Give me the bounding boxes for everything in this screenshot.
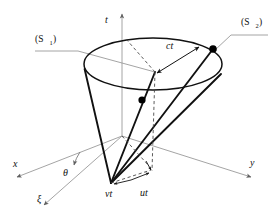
y-axis-label: y: [249, 157, 255, 168]
s2-leader-line: [215, 35, 268, 50]
leader-lines-group: [35, 35, 268, 72]
ut-drop-arrow: [146, 161, 151, 170]
theta-angle-label: θ: [63, 167, 68, 178]
worldline-to-event-2: [111, 49, 213, 183]
ct-measure-arrow: [157, 47, 199, 73]
t-axis-label: t: [105, 14, 108, 25]
light-cone-figure: t x y ξ θ ct vt ut (S 1 ) (S 2 ): [0, 0, 277, 221]
frame-s1-close: ): [53, 34, 56, 45]
light-cone-svg: t x y ξ θ ct vt ut (S 1 ) (S 2 ): [0, 0, 277, 221]
frame-s2-label: (S 2 ): [241, 17, 262, 29]
ct-radius-label: ct: [166, 40, 173, 51]
x-axis-label: x: [12, 158, 18, 169]
dashed-vertical-drop: [152, 72, 155, 171]
vt-segment-arrow-left: [114, 180, 131, 184]
event-dot-s2: [209, 45, 217, 53]
event-dot-s1: [138, 96, 145, 103]
frame-s1-open: (S: [35, 34, 43, 45]
ut-label: ut: [140, 187, 148, 198]
vt-segment-arrow-right: [131, 173, 149, 180]
s1-leader-line: [35, 51, 155, 72]
vt-label: vt: [105, 188, 112, 199]
frame-s2-open: (S: [241, 17, 249, 28]
frame-s2-close: ): [259, 17, 262, 28]
cone-generators-group: [85, 49, 221, 183]
cone-right-generator: [111, 74, 221, 183]
dashed-apex-to-rim-top: [126, 39, 155, 72]
x-axis-line: [17, 136, 122, 177]
xi-axis-label: ξ: [37, 193, 42, 205]
frame-s1-label: (S 1 ): [35, 34, 56, 46]
